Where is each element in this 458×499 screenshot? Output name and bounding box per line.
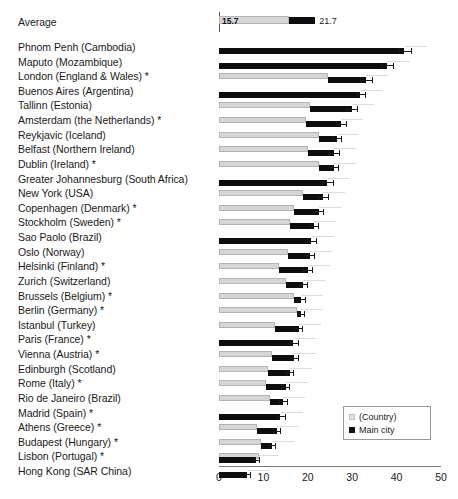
error-bar-cap-high [338, 165, 339, 171]
error-bar-cap-high [333, 180, 334, 186]
error-bar-cap-low [314, 209, 315, 215]
bar-row [0, 307, 458, 322]
error-bar [269, 445, 277, 446]
country-bar [219, 146, 308, 152]
row-guide-line [366, 75, 388, 76]
row-guide-line [352, 104, 374, 105]
row-guide-line [303, 280, 325, 281]
country-bar [219, 380, 266, 386]
error-bar [290, 358, 299, 359]
error-bar-cap-high [287, 399, 288, 405]
error-bar-cap-high [341, 136, 342, 142]
legend-item-country: (Country) [349, 410, 425, 423]
bar-row [0, 380, 458, 395]
row-guide-line [301, 309, 323, 310]
main-city-bar [219, 48, 404, 54]
x-tick-label: 50 [435, 471, 447, 483]
country-bar [219, 117, 306, 123]
error-bar-cap-high [314, 253, 315, 259]
error-bar-cap-low [322, 180, 323, 186]
error-bar-cap-high [365, 92, 366, 98]
error-bar [306, 255, 315, 256]
error-bar [299, 284, 308, 285]
error-bar [273, 431, 281, 432]
error-bar-cap-low [330, 165, 331, 171]
country-bar [219, 395, 270, 401]
error-bar-cap-low [290, 340, 291, 346]
error-bar-cap-low [329, 150, 330, 156]
bar-row [0, 468, 458, 483]
country-bar [219, 205, 294, 211]
bar-row [0, 73, 458, 88]
error-bar-cap-high [328, 194, 329, 200]
country-bar [219, 439, 261, 445]
error-bar [360, 80, 372, 81]
error-bar-cap-low [306, 253, 307, 259]
error-bar-cap-low [286, 370, 287, 376]
row-guide-line [283, 397, 305, 398]
row-guide-line [388, 61, 410, 62]
error-bar-cap-low [277, 414, 278, 420]
average-main-city-value-label: 21.7 [319, 16, 337, 26]
bar-row [0, 249, 458, 264]
country-bar [219, 219, 290, 225]
error-bar-cap-low [336, 121, 337, 127]
row-guide-line [319, 207, 341, 208]
error-bar-cap-low [318, 194, 319, 200]
error-bar-cap-low [254, 457, 255, 463]
error-bar-cap-high [323, 209, 324, 215]
error-bar-cap-low [360, 77, 361, 83]
error-bar-cap-high [304, 311, 305, 317]
error-bar [329, 153, 340, 154]
main-city-bar [219, 340, 293, 346]
error-bar-cap-low [281, 384, 282, 390]
row-guide-line [272, 441, 294, 442]
bar-row [0, 263, 458, 278]
bar-row [0, 351, 458, 366]
bar-row [0, 117, 458, 132]
error-bar [336, 124, 347, 125]
bar-row-average: 15.721.7 [0, 16, 458, 31]
row-guide-line [314, 221, 336, 222]
error-bar-cap-low [346, 106, 347, 112]
legend-swatch-main-city-icon [349, 427, 355, 433]
error-bar [290, 343, 298, 344]
row-guide-line [257, 455, 279, 456]
error-bar-cap-low [294, 326, 295, 332]
error-bar-cap-low [303, 267, 304, 273]
error-bar [318, 197, 329, 198]
error-bar [277, 416, 285, 417]
country-bar [219, 263, 279, 269]
row-guide-line [294, 353, 316, 354]
error-bar-cap-high [293, 370, 294, 376]
x-axis-line [219, 466, 441, 467]
error-bar [381, 65, 394, 66]
country-bar [219, 73, 328, 79]
main-city-bar [219, 457, 256, 463]
error-bar-cap-high [305, 297, 306, 303]
error-bar-cap-low [290, 355, 291, 361]
country-bar [219, 190, 303, 196]
row-guide-line [294, 338, 316, 339]
x-tick-label: 20 [302, 471, 314, 483]
x-tick-label: 10 [258, 471, 270, 483]
error-bar [294, 328, 303, 329]
legend-label-country: (Country) [359, 412, 397, 422]
error-bar [245, 474, 251, 475]
error-bar-cap-high [289, 384, 290, 390]
bar-row [0, 190, 458, 205]
bar-row [0, 102, 458, 117]
error-bar [330, 167, 340, 168]
error-bar-cap-high [302, 326, 303, 332]
bar-row [0, 219, 458, 234]
row-guide-line [281, 412, 303, 413]
error-bar-cap-high [312, 267, 313, 273]
row-guide-line [334, 163, 356, 164]
main-city-bar [219, 180, 327, 186]
error-bar-cap-high [318, 223, 319, 229]
error-bar-cap-low [273, 428, 274, 434]
country-bar [219, 249, 288, 255]
legend-label-main-city: Main city [359, 425, 395, 435]
average-main-city-bar [289, 17, 316, 24]
error-bar-cap-low [245, 472, 246, 478]
